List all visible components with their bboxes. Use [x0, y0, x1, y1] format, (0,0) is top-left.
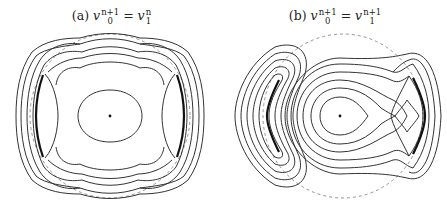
left-thick-arc — [36, 75, 43, 157]
fixed-point — [339, 115, 342, 118]
panel-a: (a) vn+10 = vn1 — [0, 0, 223, 207]
right-thick-arc — [177, 75, 184, 157]
panel-a-plot — [0, 0, 223, 207]
central-oval — [320, 97, 368, 135]
panel-b-plot — [223, 0, 447, 207]
fixed-point — [109, 115, 112, 118]
panel-b: (b) vn+10 = vn+11 — [223, 0, 447, 207]
